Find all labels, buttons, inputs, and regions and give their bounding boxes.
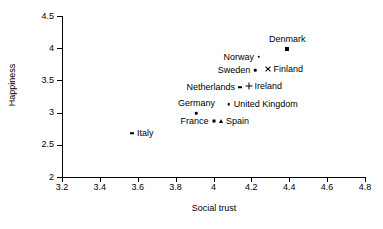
data-point-marker (258, 55, 261, 58)
y-axis-title: Happiness (7, 45, 17, 125)
x-tick-label: 4.6 (310, 183, 344, 192)
x-tick-label: 3.6 (121, 183, 155, 192)
x-tick-label: 4.8 (348, 183, 382, 192)
data-point-marker (246, 83, 253, 90)
x-tick-label: 4 (197, 183, 231, 192)
y-tick (57, 16, 62, 17)
x-tick-label: 4.2 (234, 183, 268, 192)
scatter-chart: 22.533.544.5 3.23.43.63.844.24.44.64.8 D… (0, 0, 383, 229)
y-tick-label: 3.5 (24, 76, 54, 85)
data-point-label: Finland (273, 64, 303, 73)
y-tick-label: 2.5 (24, 140, 54, 149)
y-tick-label: 4 (24, 44, 54, 53)
y-tick (57, 80, 62, 81)
data-point-marker (219, 119, 223, 123)
data-point-label: Sweden (218, 66, 251, 75)
data-point-marker (227, 103, 230, 106)
data-point-label: Germany (178, 99, 215, 108)
data-point-label: Netherlands (186, 83, 235, 92)
data-point-label: Norway (223, 52, 254, 61)
data-point-marker (265, 65, 272, 72)
data-point-label: Ireland (254, 82, 282, 91)
y-tick (57, 145, 62, 146)
data-point-label: France (180, 116, 208, 125)
y-axis-line (62, 16, 63, 178)
data-point-label: Spain (226, 116, 249, 125)
data-point-marker (238, 87, 242, 89)
y-tick-label: 2 (24, 173, 54, 182)
x-axis-title: Social trust (62, 203, 366, 213)
data-point-label: United Kingdom (234, 100, 298, 109)
data-point-marker (254, 69, 257, 72)
data-point-label: Italy (137, 129, 154, 138)
data-point-marker (212, 119, 215, 122)
y-tick-label: 3 (24, 108, 54, 117)
y-tick (57, 113, 62, 114)
data-point-marker (285, 47, 289, 51)
x-tick-label: 3.4 (83, 183, 117, 192)
y-tick-label: 4.5 (24, 12, 54, 21)
x-tick-label: 3.8 (159, 183, 193, 192)
data-point-marker (195, 112, 198, 115)
x-tick-label: 3.2 (45, 183, 79, 192)
data-point-marker (130, 132, 134, 134)
x-tick-label: 4.4 (272, 183, 306, 192)
data-point-label: Denmark (269, 35, 306, 44)
y-tick (57, 48, 62, 49)
